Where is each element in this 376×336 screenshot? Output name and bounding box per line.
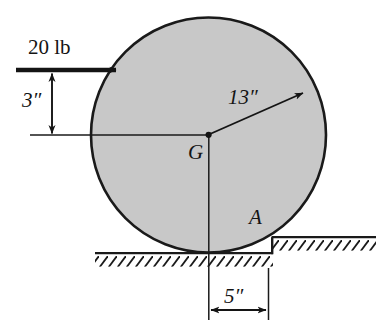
height-dimension-label: 3″ xyxy=(22,90,41,111)
offset-dimension-label: 5″ xyxy=(224,286,243,307)
ground-upper-ledge xyxy=(272,237,376,250)
contact-point-label: A xyxy=(249,207,262,228)
center-point-marker xyxy=(206,132,212,138)
center-point-label: G xyxy=(188,142,203,163)
force-label: 20 lb xyxy=(28,37,71,58)
mechanics-figure: 20 lb 3″ 13″ G A 5″ xyxy=(0,0,376,336)
radius-dimension-label: 13″ xyxy=(228,87,258,108)
ground-lower xyxy=(95,253,273,266)
